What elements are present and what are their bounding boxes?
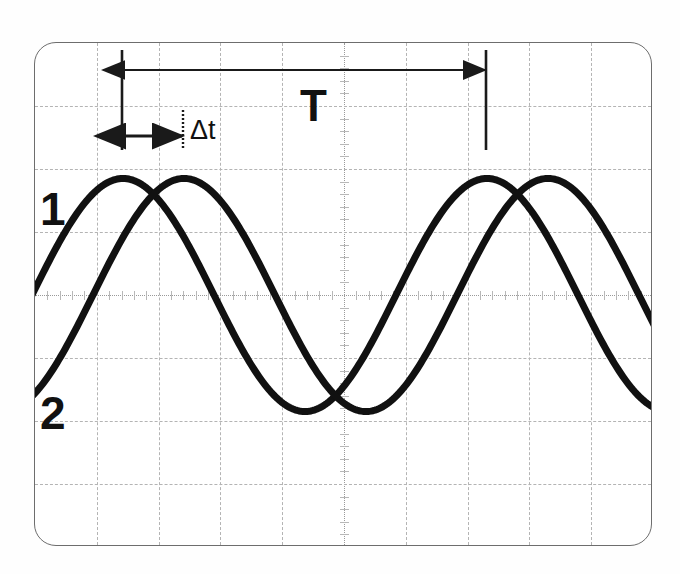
- waveform-trace-channel-1: [35, 178, 651, 411]
- waveform-traces: [35, 43, 651, 545]
- scope-screen-clip: [35, 43, 651, 545]
- channel-2-label: 2: [40, 390, 66, 436]
- scope-screen: [34, 42, 652, 546]
- period-label: T: [300, 84, 327, 128]
- oscilloscope-figure: T Δt 1 2: [0, 0, 680, 574]
- channel-1-label: 1: [40, 186, 66, 232]
- delta-t-label: Δt: [190, 117, 216, 144]
- waveform-trace-channel-2: [35, 178, 651, 411]
